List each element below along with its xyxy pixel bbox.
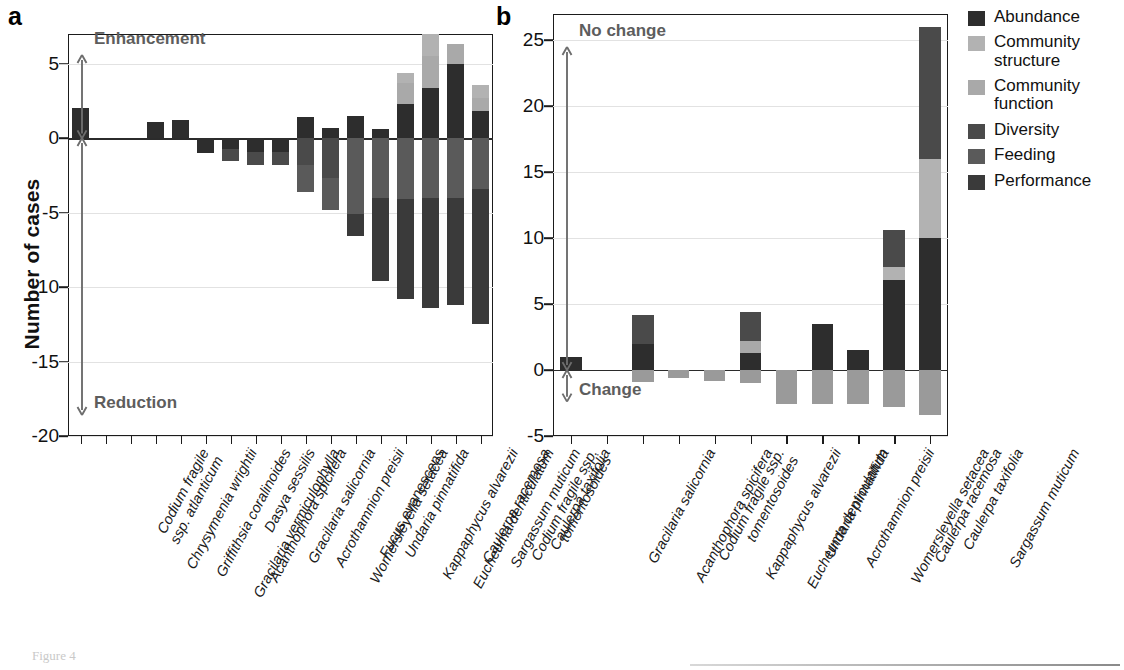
y-tick-mark <box>59 212 68 214</box>
bar-segment <box>322 138 340 178</box>
annotation-double-arrow <box>557 47 577 370</box>
x-tick-mark <box>81 436 82 444</box>
annotation-label: Change <box>579 380 641 400</box>
bar-column <box>372 34 390 436</box>
y-tick-label: -5 <box>42 202 59 224</box>
bar-segment <box>422 88 440 139</box>
bar-column <box>147 34 165 436</box>
bar-column <box>668 14 690 436</box>
bar-segment <box>668 370 690 378</box>
x-tick-mark <box>431 436 432 444</box>
bar-segment <box>812 324 834 370</box>
bar-column <box>472 34 490 436</box>
page-rule-divider <box>690 664 1120 666</box>
bar-segment <box>222 138 240 148</box>
annotation-label: No change <box>579 21 666 41</box>
bar-segment <box>222 149 240 161</box>
x-tick-mark <box>607 436 608 444</box>
annotation-double-arrow <box>557 370 577 402</box>
x-tick-mark <box>106 436 107 444</box>
bar-column <box>847 14 869 436</box>
bar-segment <box>422 34 440 56</box>
bar-segment <box>372 129 390 138</box>
bar-segment <box>297 117 315 138</box>
x-tick-mark <box>679 436 680 444</box>
y-tick-label: -15 <box>32 351 59 373</box>
bar-column <box>883 14 905 436</box>
bar-segment <box>883 280 905 370</box>
x-tick-mark <box>930 436 931 444</box>
legend-swatch <box>968 11 985 26</box>
x-tick-mark <box>256 436 257 444</box>
legend-item[interactable]: Community function <box>968 77 1118 114</box>
x-tick-mark <box>643 436 644 444</box>
legend-item[interactable]: Community structure <box>968 33 1118 70</box>
y-axis-title: Number of cases <box>20 144 44 384</box>
bar-column <box>776 14 798 436</box>
bar-segment <box>422 198 440 308</box>
legend-item[interactable]: Feeding <box>968 146 1118 164</box>
bar-column <box>919 14 941 436</box>
y-tick-mark <box>544 40 553 42</box>
bar-segment <box>397 138 415 199</box>
bar-segment <box>172 120 190 138</box>
bar-column <box>272 34 290 436</box>
legend-swatch <box>968 149 985 164</box>
y-tick-label: -20 <box>32 425 59 447</box>
bar-segment <box>397 199 415 299</box>
bar-column <box>596 14 618 436</box>
bar-column <box>122 34 140 436</box>
x-tick-mark <box>858 436 859 444</box>
bar-column <box>632 14 654 436</box>
bar-segment <box>372 198 390 281</box>
bar-segment <box>197 138 215 153</box>
bar-segment <box>472 85 490 98</box>
figure-root: a b Number of cases 50-5-10-15-20Enhance… <box>0 0 1124 670</box>
bar-segment <box>919 27 941 159</box>
annotation-label: Reduction <box>94 393 177 413</box>
bar-column <box>447 34 465 436</box>
annotation-double-arrow <box>72 55 92 138</box>
bar-segment <box>397 104 415 138</box>
x-tick-mark <box>751 436 752 444</box>
bar-segment <box>347 214 365 236</box>
panel-label-b: b <box>496 2 511 31</box>
y-tick-mark <box>544 303 553 305</box>
y-tick-label: -5 <box>527 425 544 447</box>
bar-segment <box>919 238 941 370</box>
legend-swatch <box>968 175 985 190</box>
bar-column <box>172 34 190 436</box>
legend-label: Diversity <box>994 121 1059 139</box>
legend-item[interactable]: Diversity <box>968 121 1118 139</box>
x-tick-mark <box>306 436 307 444</box>
annotation-double-arrow <box>72 138 92 415</box>
x-tick-mark <box>571 436 572 444</box>
bar-segment <box>422 56 440 87</box>
x-tick-mark <box>206 436 207 444</box>
bar-segment <box>247 138 265 151</box>
y-tick-label: 0 <box>533 359 544 381</box>
legend-item[interactable]: Abundance <box>968 8 1118 26</box>
bar-segment <box>147 122 165 138</box>
y-tick-mark <box>544 237 553 239</box>
x-tick-label: Codium fragilessp. atlanticum <box>145 446 226 559</box>
bar-column <box>247 34 265 436</box>
bar-segment <box>632 344 654 370</box>
y-tick-label: 10 <box>523 227 544 249</box>
y-tick-mark <box>544 369 553 371</box>
bar-column <box>297 34 315 436</box>
annotation-label: Enhancement <box>94 29 205 49</box>
figure-caption: Figure 4 <box>32 648 76 664</box>
y-tick-label: 20 <box>523 95 544 117</box>
y-tick-label: 25 <box>523 29 544 51</box>
legend-swatch <box>968 124 985 139</box>
bar-segment <box>847 350 869 370</box>
x-tick-mark <box>894 436 895 444</box>
legend-swatch <box>968 80 985 95</box>
bar-column <box>397 34 415 436</box>
legend-item[interactable]: Performance <box>968 172 1118 190</box>
bar-segment <box>272 138 290 151</box>
bar-segment <box>919 370 941 415</box>
bar-column <box>740 14 762 436</box>
bar-column <box>222 34 240 436</box>
